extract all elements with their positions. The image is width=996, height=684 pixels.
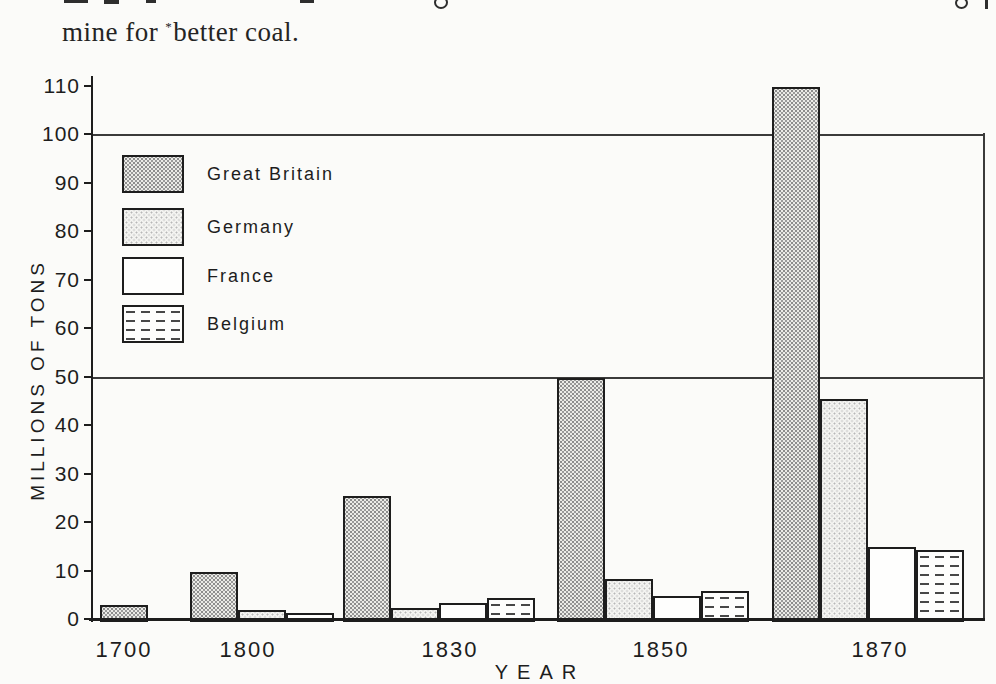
y-tick-0 xyxy=(84,618,92,620)
y-tick-label-40: 40 xyxy=(18,414,80,436)
text-fragment xyxy=(300,0,314,3)
legend-label-belgium: Belgium xyxy=(207,312,286,336)
y-tick-60 xyxy=(84,327,92,329)
legend-swatch-france xyxy=(122,257,184,295)
descender-fragment xyxy=(434,0,448,9)
y-tick-label-60: 60 xyxy=(18,317,80,339)
bar-france-1870 xyxy=(868,547,916,622)
gridline-50 xyxy=(92,377,985,379)
bar-great-britain-1850 xyxy=(557,378,605,623)
bar-germany-1870 xyxy=(820,399,868,622)
y-tick-40 xyxy=(84,424,92,426)
book-text-line: mine for*better coal. xyxy=(62,10,299,49)
x-label-1800: 1800 xyxy=(220,637,277,663)
y-tick-80 xyxy=(84,230,92,232)
y-tick-label-10: 10 xyxy=(18,560,80,582)
text-fragment xyxy=(64,0,88,3)
bar-great-britain-1800 xyxy=(190,572,238,623)
bar-germany-1850 xyxy=(605,579,653,622)
x-label-1870: 1870 xyxy=(852,637,909,663)
bar-great-britain-1830 xyxy=(343,496,391,622)
y-tick-100 xyxy=(84,133,92,135)
footnote-mark: * xyxy=(165,19,172,34)
legend-label-great-britain: Great Britain xyxy=(207,162,334,186)
y-tick-label-90: 90 xyxy=(18,172,80,194)
y-tick-30 xyxy=(84,473,92,475)
legend-swatch-great-britain xyxy=(122,155,184,193)
legend-swatch-germany xyxy=(122,208,184,246)
descender-fragment xyxy=(955,0,968,9)
y-tick-label-0: 0 xyxy=(18,608,80,630)
y-tick-50 xyxy=(84,376,92,378)
book-text-part2: better coal. xyxy=(173,17,299,47)
x-label-1700: 1700 xyxy=(96,637,153,663)
x-label-1850: 1850 xyxy=(633,637,690,663)
y-tick-label-30: 30 xyxy=(18,463,80,485)
text-fragment xyxy=(104,0,119,4)
bar-great-britain-1870 xyxy=(772,87,820,623)
x-label-1830: 1830 xyxy=(422,637,479,663)
bar-belgium-1870 xyxy=(916,550,964,622)
y-tick-label-50: 50 xyxy=(18,366,80,388)
x-axis-line xyxy=(89,618,985,621)
y-tick-label-110: 110 xyxy=(18,75,80,97)
y-tick-label-100: 100 xyxy=(18,123,80,145)
y-tick-110 xyxy=(84,85,92,87)
scanned-book-page: mine for*better coal. MILLIONS OF TONS Y… xyxy=(0,0,996,684)
y-axis-line xyxy=(91,76,93,622)
y-tick-label-80: 80 xyxy=(18,220,80,242)
y-tick-90 xyxy=(84,182,92,184)
y-tick-20 xyxy=(84,521,92,523)
legend-label-france: France xyxy=(207,264,275,288)
y-tick-label-20: 20 xyxy=(18,511,80,533)
legend-label-germany: Germany xyxy=(207,215,295,239)
gridline-100 xyxy=(92,134,985,136)
x-axis-title: YEAR xyxy=(495,661,585,684)
book-text-part1: mine for xyxy=(62,17,158,47)
y-tick-10 xyxy=(84,570,92,572)
text-fragment xyxy=(146,0,156,3)
y-tick-70 xyxy=(84,279,92,281)
descender-fragment xyxy=(985,0,988,9)
legend-swatch-belgium xyxy=(122,305,184,343)
y-tick-label-70: 70 xyxy=(18,269,80,291)
